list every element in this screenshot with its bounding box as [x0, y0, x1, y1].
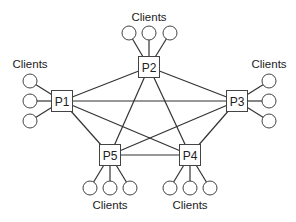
client-node-p4-3	[203, 181, 217, 195]
client-node-p4-1	[163, 181, 177, 195]
client-node-p5-3	[123, 181, 137, 195]
clients-label-p5: Clients	[92, 199, 127, 211]
client-node-p5-2	[103, 181, 117, 195]
server-label-p4: P4	[183, 149, 198, 163]
client-node-p1-1	[23, 74, 37, 88]
clients-label-p1: Clients	[12, 58, 47, 70]
edges-layer	[62, 67, 237, 155]
client-node-p3-1	[262, 74, 276, 88]
client-node-p2-1	[122, 26, 136, 40]
server-label-p3: P3	[230, 95, 245, 109]
link-p1-p4	[62, 101, 190, 155]
client-node-p3-3	[262, 114, 276, 128]
client-node-p4-2	[183, 181, 197, 195]
clients-label-p4: Clients	[172, 199, 207, 211]
server-label-p5: P5	[103, 149, 118, 163]
client-node-p2-2	[142, 26, 156, 40]
client-node-p1-3	[23, 114, 37, 128]
network-diagram: ClientsClientsClientsClientsClients P1P2…	[0, 0, 296, 222]
clients-label-p2: Clients	[131, 11, 166, 23]
client-node-p5-1	[83, 181, 97, 195]
server-label-p1: P1	[55, 95, 70, 109]
client-node-p3-2	[262, 94, 276, 108]
nodes-layer: P1P2P3P4P5	[52, 57, 248, 166]
server-label-p2: P2	[142, 61, 157, 75]
client-node-p2-3	[163, 26, 177, 40]
link-p3-p5	[110, 101, 237, 155]
clients-label-p3: Clients	[251, 58, 286, 70]
client-node-p1-2	[23, 94, 37, 108]
